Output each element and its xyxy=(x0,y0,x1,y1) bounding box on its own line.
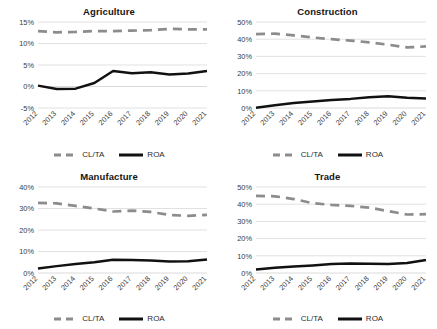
legend-construction: CL/TA ROA xyxy=(218,150,437,159)
legend-agriculture: CL/TA ROA xyxy=(0,150,218,159)
x-tick-label: 2014 xyxy=(277,274,295,292)
x-tick-label: 2016 xyxy=(97,274,115,292)
series-line-roa xyxy=(256,96,426,107)
x-tick-label: 2020 xyxy=(391,109,409,127)
panel-manufacture: Manufacture 0%10%20%30%40%20122013201420… xyxy=(0,165,218,329)
legend-label-clta: CL/TA xyxy=(301,150,323,159)
legend-label-roa: ROA xyxy=(366,314,383,323)
series-line-roa xyxy=(256,260,426,270)
legend-entry-clta: CL/TA xyxy=(53,314,104,323)
panel-trade: Trade 0%10%20%30%40%50%20122013201420152… xyxy=(218,165,437,329)
series-line-clta xyxy=(256,34,426,48)
x-tick-label: 2018 xyxy=(353,109,371,127)
y-tick-label: 20% xyxy=(237,234,252,243)
multi-panel-line-chart-figure: Agriculture -5%0%5%10%15%201220132014201… xyxy=(0,0,437,329)
legend-entry-clta: CL/TA xyxy=(53,150,104,159)
x-tick-label: 2014 xyxy=(277,109,295,127)
y-tick-label: 30% xyxy=(19,204,34,213)
y-tick-label: 10% xyxy=(237,252,252,261)
series-line-roa xyxy=(38,259,207,268)
x-tick-label: 2019 xyxy=(372,274,390,292)
x-tick-label: 2020 xyxy=(172,274,190,292)
solid-line-swatch-icon xyxy=(337,152,363,158)
legend-entry-roa: ROA xyxy=(118,150,164,159)
dashed-line-swatch-icon xyxy=(272,316,298,322)
legend-manufacture: CL/TA ROA xyxy=(0,314,218,323)
y-tick-label: 5% xyxy=(23,61,34,70)
legend-entry-roa: ROA xyxy=(337,150,383,159)
y-tick-label: 50% xyxy=(237,183,252,192)
y-tick-label: 10% xyxy=(19,39,34,48)
dashed-line-swatch-icon xyxy=(53,152,79,158)
plot-area-construction: 0%10%20%30%40%50%20122013201420152016201… xyxy=(218,0,437,165)
y-tick-label: 40% xyxy=(237,35,252,44)
y-tick-label: 40% xyxy=(237,200,252,209)
series-line-clta xyxy=(38,203,207,216)
dashed-line-swatch-icon xyxy=(272,152,298,158)
panel-construction: Construction 0%10%20%30%40%50%2012201320… xyxy=(218,0,437,165)
x-tick-label: 2019 xyxy=(372,109,390,127)
x-tick-label: 2013 xyxy=(258,274,276,292)
x-tick-label: 2015 xyxy=(78,274,96,292)
x-tick-label: 2021 xyxy=(190,274,208,292)
x-tick-label: 2021 xyxy=(190,109,208,127)
legend-trade: CL/TA ROA xyxy=(218,314,437,323)
legend-label-clta: CL/TA xyxy=(82,150,104,159)
plot-area-agriculture: -5%0%5%10%15%201220132014201520162017201… xyxy=(0,0,218,165)
x-tick-label: 2016 xyxy=(315,274,333,292)
y-tick-label: 40% xyxy=(19,183,34,192)
solid-line-swatch-icon xyxy=(118,316,144,322)
legend-label-clta: CL/TA xyxy=(301,314,323,323)
legend-label-roa: ROA xyxy=(147,150,164,159)
x-tick-label: 2013 xyxy=(40,274,58,292)
x-tick-label: 2016 xyxy=(97,109,115,127)
x-tick-label: 2017 xyxy=(334,109,352,127)
x-tick-label: 2015 xyxy=(296,109,314,127)
legend-entry-clta: CL/TA xyxy=(272,314,323,323)
x-tick-label: 2021 xyxy=(409,109,427,127)
x-tick-label: 2016 xyxy=(315,109,333,127)
x-tick-label: 2013 xyxy=(258,109,276,127)
plot-area-manufacture: 0%10%20%30%40%20122013201420152016201720… xyxy=(0,165,218,329)
x-tick-label: 2017 xyxy=(334,274,352,292)
x-tick-label: 2019 xyxy=(153,274,171,292)
x-tick-label: 2013 xyxy=(40,109,58,127)
y-tick-label: 0% xyxy=(23,82,34,91)
x-tick-label: 2018 xyxy=(134,109,152,127)
y-tick-label: 10% xyxy=(19,247,34,256)
dashed-line-swatch-icon xyxy=(53,316,79,322)
plot-area-trade: 0%10%20%30%40%50%20122013201420152016201… xyxy=(218,165,437,329)
panel-agriculture: Agriculture -5%0%5%10%15%201220132014201… xyxy=(0,0,218,165)
legend-entry-clta: CL/TA xyxy=(272,150,323,159)
series-line-clta xyxy=(38,29,207,32)
series-line-clta xyxy=(256,196,426,215)
legend-label-clta: CL/TA xyxy=(82,314,104,323)
y-tick-label: 50% xyxy=(237,18,252,27)
x-tick-label: 2018 xyxy=(353,274,371,292)
y-tick-label: 30% xyxy=(237,52,252,61)
y-tick-label: 15% xyxy=(19,18,34,27)
x-tick-label: 2017 xyxy=(115,109,133,127)
x-tick-label: 2014 xyxy=(59,109,77,127)
solid-line-swatch-icon xyxy=(337,316,363,322)
x-tick-label: 2021 xyxy=(409,274,427,292)
x-tick-label: 2020 xyxy=(172,109,190,127)
x-tick-label: 2019 xyxy=(153,109,171,127)
legend-label-roa: ROA xyxy=(366,150,383,159)
legend-label-roa: ROA xyxy=(147,314,164,323)
x-tick-label: 2015 xyxy=(78,109,96,127)
x-tick-label: 2020 xyxy=(391,274,409,292)
legend-entry-roa: ROA xyxy=(337,314,383,323)
x-tick-label: 2018 xyxy=(134,274,152,292)
x-tick-label: 2014 xyxy=(59,274,77,292)
y-tick-label: 10% xyxy=(237,87,252,96)
x-tick-label: 2017 xyxy=(115,274,133,292)
y-tick-label: 30% xyxy=(237,217,252,226)
y-tick-label: 20% xyxy=(237,69,252,78)
legend-entry-roa: ROA xyxy=(118,314,164,323)
x-tick-label: 2015 xyxy=(296,274,314,292)
y-tick-label: 20% xyxy=(19,226,34,235)
solid-line-swatch-icon xyxy=(118,152,144,158)
